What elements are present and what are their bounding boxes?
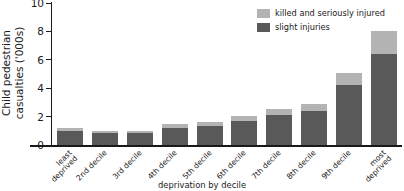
chart-legend: killed and seriously injured slight inju… <box>257 9 385 37</box>
bar <box>301 104 327 145</box>
bar-segment-killed-seriously-injured <box>231 116 257 121</box>
bar <box>127 131 153 145</box>
y-axis-tick-label: 8 <box>22 26 44 37</box>
bar <box>57 128 83 145</box>
bar-segment-killed-seriously-injured <box>266 109 292 115</box>
bar <box>92 131 118 145</box>
bar <box>371 31 397 145</box>
y-axis-tick-label: 6 <box>22 55 44 66</box>
legend-item-slight: slight injuries <box>257 23 385 32</box>
legend-swatch-ksi <box>257 9 270 18</box>
bar-segment-killed-seriously-injured <box>127 131 153 133</box>
y-axis-title-line1: Child pedestrian <box>0 30 12 116</box>
y-axis-tick-label: 10 <box>22 0 44 9</box>
bar-segment-slight-injuries <box>92 133 118 145</box>
x-axis-line <box>30 145 402 147</box>
y-axis-title: Child pedestrian casualties ('000s) <box>0 0 30 150</box>
bar-segment-slight-injuries <box>127 133 153 145</box>
bar-segment-slight-injuries <box>301 111 327 145</box>
bar-segment-killed-seriously-injured <box>301 104 327 111</box>
bar-chart-figure: Child pedestrian casualties ('000s) 0246… <box>0 0 404 191</box>
bar-segment-slight-injuries <box>371 54 397 145</box>
bar-segment-slight-injuries <box>197 126 223 145</box>
bar-segment-killed-seriously-injured <box>162 124 188 128</box>
bar-segment-killed-seriously-injured <box>57 128 83 131</box>
bar-segment-killed-seriously-injured <box>92 131 118 133</box>
bar-segment-killed-seriously-injured <box>336 73 362 86</box>
bar-segment-slight-injuries <box>266 115 292 145</box>
bar-segment-slight-injuries <box>162 128 188 145</box>
bar <box>197 122 223 145</box>
y-axis-tick-label: 2 <box>22 112 44 123</box>
bar-segment-killed-seriously-injured <box>197 122 223 126</box>
legend-label-slight: slight injuries <box>275 23 330 32</box>
y-axis-tick-label: 4 <box>22 83 44 94</box>
y-axis-tick-label: 0 <box>22 140 44 151</box>
legend-label-ksi: killed and seriously injured <box>275 9 385 18</box>
y-axis-title-line2: casualties ('000s) <box>13 0 26 146</box>
bar <box>162 124 188 145</box>
bar-segment-slight-injuries <box>231 121 257 145</box>
bar <box>231 116 257 145</box>
legend-item-ksi: killed and seriously injured <box>257 9 385 18</box>
bar-segment-slight-injuries <box>57 131 83 145</box>
legend-swatch-slight <box>257 23 270 32</box>
bar <box>336 73 362 145</box>
x-axis-title: deprivation by decile <box>0 180 404 190</box>
bar-segment-slight-injuries <box>336 85 362 145</box>
bar <box>266 109 292 145</box>
